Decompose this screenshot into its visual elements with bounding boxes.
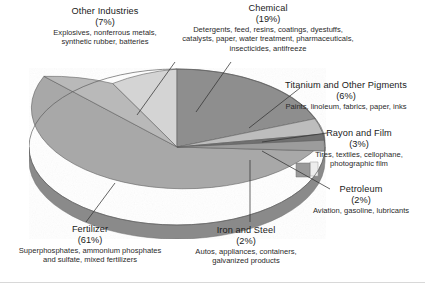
callout-rayon-and-film: Rayon and Film (3%) Tires, textiles, cel… [296, 128, 422, 169]
label-name-titanium: Titanium and Other Pigments [268, 80, 424, 91]
label-desc-line: Paints, linoleum, fabrics, paper, inks [268, 102, 424, 111]
label-desc-line: insecticides, antifreeze [138, 44, 398, 53]
label-percent-rayon: (3%) [296, 139, 422, 150]
label-percent-titanium: (6%) [268, 91, 424, 102]
label-desc-titanium: Paints, linoleum, fabrics, paper, inks [268, 102, 424, 111]
callout-iron-and-steel: Iron and Steel (2%) Autos, appliances, c… [178, 225, 314, 266]
label-desc-fertilizer: Superphosphates, ammonium phosphates and… [0, 246, 180, 265]
label-name-petroleum: Petroleum [300, 184, 422, 195]
label-desc-chemical: Detergents, feed, resins, coatings, dyes… [138, 25, 398, 53]
label-desc-line: and sulfate, mixed fertilizers [0, 255, 180, 264]
label-desc-iron-steel: Autos, appliances, containers, galvanize… [178, 247, 314, 266]
label-desc-line: Autos, appliances, containers, [178, 247, 314, 256]
label-name-iron-steel: Iron and Steel [178, 225, 314, 236]
label-name-rayon: Rayon and Film [296, 128, 422, 139]
label-desc-line: Tires, textiles, cellophane, [296, 150, 422, 159]
label-desc-line: Detergents, feed, resins, coatings, dyes… [138, 25, 398, 34]
callout-titanium: Titanium and Other Pigments (6%) Paints,… [268, 80, 424, 111]
label-name-chemical: Chemical [138, 3, 398, 14]
label-percent-chemical: (19%) [138, 14, 398, 25]
label-desc-rayon: Tires, textiles, cellophane, photographi… [296, 150, 422, 169]
callout-fertilizer: Fertilizer (61%) Superphosphates, ammoni… [0, 224, 180, 265]
label-desc-line: catalysts, paper, water treatment, pharm… [138, 34, 398, 43]
label-desc-line: photographic film [296, 159, 422, 168]
label-percent-iron-steel: (2%) [178, 236, 314, 247]
label-desc-line: galvanized products [178, 256, 314, 265]
label-percent-petroleum: (2%) [300, 195, 422, 206]
callout-petroleum: Petroleum (2%) Aviation, gasoline, lubri… [300, 184, 422, 215]
callout-chemical: Chemical (19%) Detergents, feed, resins,… [138, 3, 398, 53]
label-percent-fertilizer: (61%) [0, 235, 180, 246]
label-desc-petroleum: Aviation, gasoline, lubricants [300, 206, 422, 215]
label-desc-line: Superphosphates, ammonium phosphates [0, 246, 180, 255]
label-name-fertilizer: Fertilizer [0, 224, 180, 235]
label-desc-line: Aviation, gasoline, lubricants [300, 206, 422, 215]
